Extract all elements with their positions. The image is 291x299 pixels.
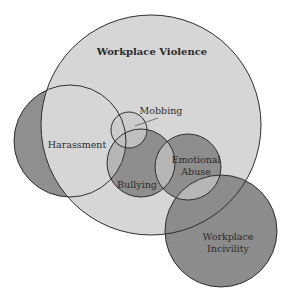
emotional-abuse-label-line1: Emotional — [171, 154, 220, 165]
bullying-label: Bullying — [117, 179, 157, 190]
venn-diagram: Workplace Violence Harassment Mobbing Bu… — [0, 0, 291, 299]
emotional-abuse-label-line2: Abuse — [180, 166, 211, 177]
mobbing-label: Mobbing — [140, 105, 183, 116]
workplace-violence-label: Workplace Violence — [96, 46, 207, 57]
harassment-label: Harassment — [48, 139, 107, 150]
workplace-incivility-label-line2: Incivility — [207, 243, 250, 254]
workplace-incivility-label-line1: Workplace — [203, 231, 254, 242]
